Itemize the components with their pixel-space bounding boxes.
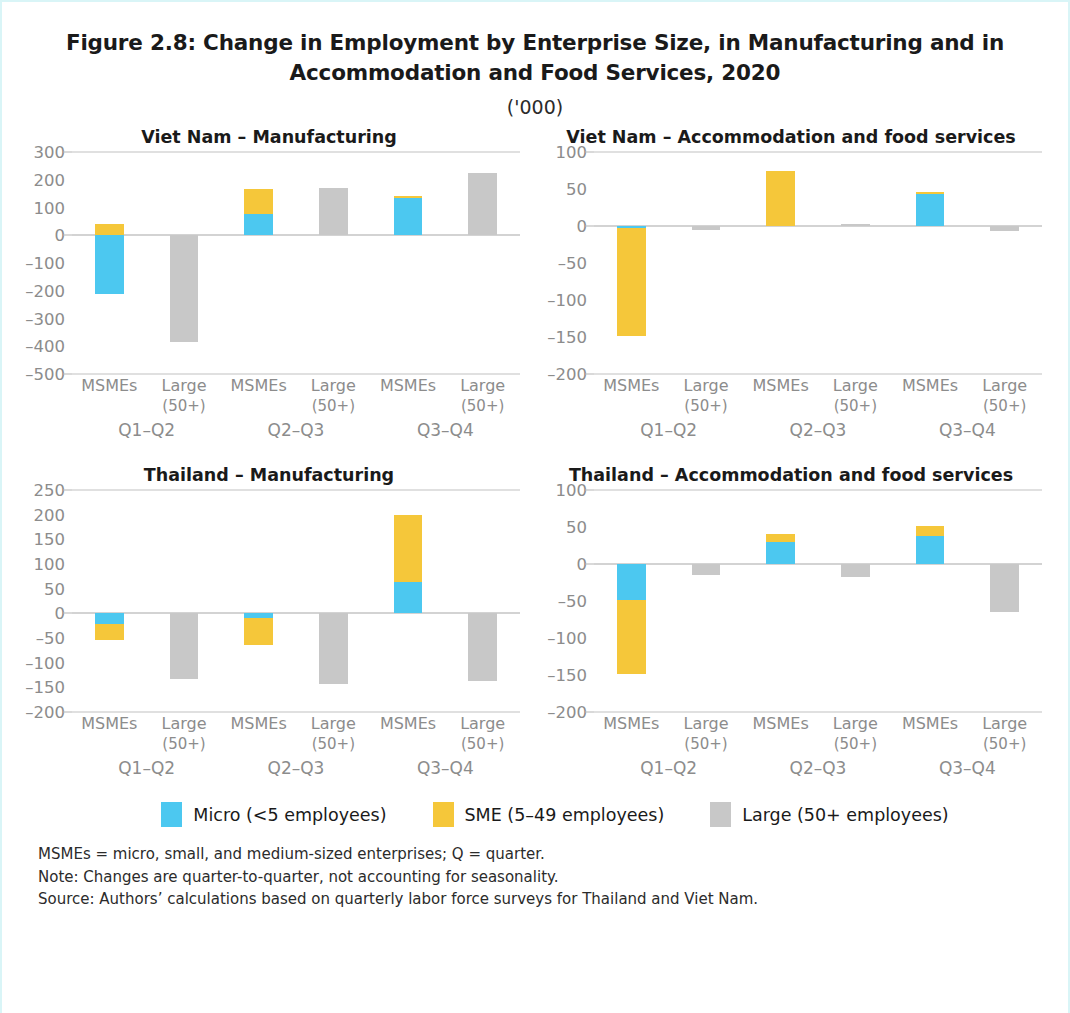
y-axis-tick-label: 300 — [34, 143, 66, 162]
x-axis-group-label: Q1–Q2 — [118, 758, 175, 778]
y-axis-tick-label: 150 — [34, 530, 66, 549]
bar-segment-large — [990, 564, 1019, 612]
x-group-labels: Q1–Q2Q2–Q3Q3–Q4 — [594, 758, 1042, 788]
y-axis-tick-label: 100 — [556, 481, 588, 500]
figure-page: Figure 2.8: Change in Employment by Ente… — [0, 0, 1070, 1013]
bar-segment-sme — [95, 624, 124, 640]
x-axis-tick-label: Large(50+) — [833, 714, 878, 754]
x-label-main: Large — [833, 376, 878, 395]
x-label-sub: (50+) — [683, 734, 728, 754]
bar-segment-sme — [394, 515, 423, 583]
y-axis-tick-label: 250 — [34, 481, 66, 500]
bar-group — [692, 490, 721, 712]
x-axis-tick-label: Large(50+) — [311, 714, 356, 754]
title-block: Figure 2.8: Change in Employment by Ente… — [2, 2, 1068, 118]
y-axis-tick-label: –150 — [547, 666, 587, 685]
legend-item: Micro (<5 employees) — [161, 802, 386, 827]
y-axis-tick-label: –200 — [25, 281, 65, 300]
y-axis-tick-label: 50 — [44, 579, 65, 598]
bar-group — [916, 490, 945, 712]
bar-group — [170, 152, 199, 374]
legend-label: SME (5–49 employees) — [465, 805, 665, 825]
bar-segment-sme — [617, 600, 646, 674]
legend-label: Micro (<5 employees) — [193, 805, 386, 825]
x-label-main: Large — [161, 714, 206, 733]
x-label-sub: (50+) — [311, 396, 356, 416]
gridline — [594, 490, 1042, 491]
x-axis-tick-label: Large(50+) — [982, 714, 1027, 754]
bar-group — [319, 490, 348, 712]
y-axis-tick-mark — [63, 712, 72, 713]
bar-segment-sme — [394, 196, 423, 198]
x-label-main: Large — [982, 714, 1027, 733]
legend-label: Large (50+ employees) — [742, 805, 948, 825]
bar-group — [468, 490, 497, 712]
bar-segment-large — [170, 235, 199, 342]
bar-segment-micro — [617, 564, 646, 600]
x-axis-tick-label: MSMEs — [753, 714, 809, 734]
bar-group — [766, 152, 795, 374]
bar-segment-sme — [244, 618, 273, 645]
panel-th-accommodation: Thailand – Accommodation and food servic… — [530, 464, 1052, 788]
bar-segment-large — [692, 564, 721, 575]
bar-group — [319, 152, 348, 374]
bar-group — [394, 152, 423, 374]
panel-title: Thailand – Accommodation and food servic… — [530, 464, 1052, 490]
y-axis-tick-label: –100 — [25, 254, 65, 273]
bar-segment-sme — [766, 171, 795, 227]
chart-row-bottom: Thailand – Manufacturing 250200150100500… — [8, 464, 1066, 788]
y-axis-tick-label: –150 — [25, 678, 65, 697]
x-axis-tick-label: MSMEs — [902, 376, 958, 396]
x-axis-tick-label: Large(50+) — [161, 376, 206, 416]
bar-segment-micro — [916, 194, 945, 226]
bar-group — [95, 152, 124, 374]
x-axis-tick-label: MSMEs — [81, 714, 137, 734]
x-label-main: MSMEs — [902, 714, 958, 733]
note-source: Source: Authors’ calculations based on q… — [38, 888, 1068, 911]
y-axis-tick-mark — [63, 374, 72, 375]
x-axis-tick-label: Large(50+) — [982, 376, 1027, 416]
x-label-sub: (50+) — [161, 734, 206, 754]
zero-axis-line — [594, 226, 1042, 227]
y-axis-tick-label: –200 — [25, 703, 65, 722]
x-label-sub: (50+) — [460, 734, 505, 754]
panel-th-manufacturing: Thailand – Manufacturing 250200150100500… — [8, 464, 530, 788]
figure-subtitle: ('000) — [60, 96, 1010, 118]
y-axis-tick-mark — [585, 152, 594, 153]
x-label-sub: (50+) — [683, 396, 728, 416]
plot-area: 100500–50–100–150–200 — [594, 490, 1042, 712]
bar-group — [468, 152, 497, 374]
legend-item: Large (50+ employees) — [710, 802, 948, 827]
x-axis-group-label: Q3–Q4 — [939, 420, 996, 440]
bar-segment-large — [692, 226, 721, 230]
bar-segment-sme — [95, 224, 124, 235]
gridline — [594, 152, 1042, 153]
plot-area: 100500–50–100–150–200 — [594, 152, 1042, 374]
y-axis-tick-label: –400 — [25, 337, 65, 356]
x-axis-group-label: Q1–Q2 — [640, 420, 697, 440]
y-axis-tick-label: –300 — [25, 309, 65, 328]
bar-segment-sme — [617, 228, 646, 335]
bar-group — [841, 152, 870, 374]
x-axis-group-label: Q2–Q3 — [268, 420, 325, 440]
bar-segment-large — [170, 613, 199, 679]
bar-segment-sme — [916, 526, 945, 536]
x-label-main: MSMEs — [902, 376, 958, 395]
y-axis-tick-label: –50 — [558, 592, 587, 611]
bar-segment-large — [468, 173, 497, 235]
x-axis-tick-label: MSMEs — [81, 376, 137, 396]
x-axis-tick-label: MSMEs — [902, 714, 958, 734]
chart-panels: Viet Nam – Manufacturing 3002001000–100–… — [2, 118, 1070, 788]
legend-swatch-sme — [433, 802, 454, 827]
x-label-main: MSMEs — [231, 714, 287, 733]
y-axis-tick-label: –200 — [547, 703, 587, 722]
x-axis: MSMEsLarge(50+)MSMEsLarge(50+)MSMEsLarge… — [594, 374, 1042, 420]
bar-group — [244, 152, 273, 374]
bar-segment-micro — [766, 542, 795, 564]
x-label-main: MSMEs — [603, 714, 659, 733]
x-axis-group-label: Q2–Q3 — [268, 758, 325, 778]
x-label-main: Large — [161, 376, 206, 395]
bar-segment-large — [841, 564, 870, 577]
x-axis-group-label: Q2–Q3 — [790, 420, 847, 440]
y-axis-tick-mark — [585, 226, 594, 227]
